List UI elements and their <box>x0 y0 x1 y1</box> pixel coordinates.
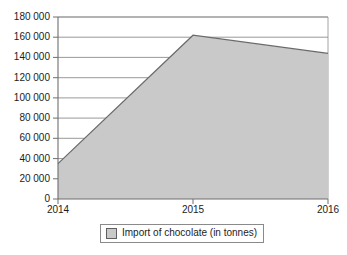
x-axis-labels: 2014 2015 2016 <box>47 204 340 215</box>
y-axis-label-60000: 60 000 <box>19 132 50 143</box>
chart-legend: Import of chocolate (in tonnes) <box>100 224 264 243</box>
legend-series-label: Import of chocolate (in tonnes) <box>122 227 257 239</box>
series-import-of-chocolate <box>58 35 328 199</box>
y-axis-labels: 180 000 160 000 140 000 120 000 100 000 … <box>14 11 51 204</box>
x-axis-label-2016: 2016 <box>317 204 340 215</box>
y-axis-label-0: 0 <box>44 193 50 204</box>
y-tickmarks <box>53 17 58 199</box>
y-axis-label-160000: 160 000 <box>14 31 51 42</box>
y-axis-label-40000: 40 000 <box>19 153 50 164</box>
x-axis-label-2014: 2014 <box>47 204 70 215</box>
area-fill-shape <box>58 35 328 199</box>
y-axis-label-180000: 180 000 <box>14 11 51 22</box>
y-axis-label-80000: 80 000 <box>19 112 50 123</box>
x-axis-label-2015: 2015 <box>182 204 205 215</box>
legend-color-swatch-icon <box>106 228 117 239</box>
y-axis-label-100000: 100 000 <box>14 92 51 103</box>
area-chart: 180 000 160 000 140 000 120 000 100 000 … <box>0 0 347 255</box>
y-axis-label-20000: 20 000 <box>19 173 50 184</box>
y-axis-label-140000: 140 000 <box>14 51 51 62</box>
y-axis-label-120000: 120 000 <box>14 72 51 83</box>
chart-container: 180 000 160 000 140 000 120 000 100 000 … <box>0 0 347 255</box>
